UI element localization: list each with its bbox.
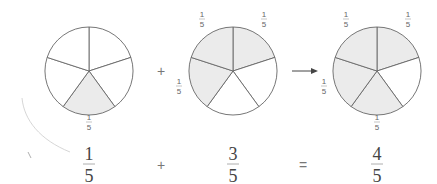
slice-label: 15 <box>86 113 92 132</box>
svg-text:5: 5 <box>87 123 92 132</box>
svg-text:1: 1 <box>200 10 205 19</box>
svg-text:1: 1 <box>262 10 267 19</box>
svg-text:1: 1 <box>344 10 349 19</box>
svg-text:1: 1 <box>322 77 327 86</box>
svg-text:3: 3 <box>229 144 238 164</box>
arrow-icon <box>292 68 318 74</box>
svg-text:5: 5 <box>200 20 205 29</box>
pie-3: 15151515 <box>321 10 421 132</box>
svg-text:4: 4 <box>373 144 382 164</box>
svg-text:1: 1 <box>177 77 182 86</box>
fraction-addition-diagram: 1515151515151515 + 1 5 + 3 5 = 4 5 <box>0 0 437 184</box>
svg-text:5: 5 <box>375 123 380 132</box>
svg-text:5: 5 <box>406 20 411 29</box>
svg-text:1: 1 <box>375 113 380 122</box>
svg-text:1: 1 <box>85 144 94 164</box>
fraction-term-2: 3 5 <box>227 144 239 184</box>
fraction-result: 4 5 <box>371 144 383 184</box>
plus-sign: + <box>157 157 165 173</box>
svg-text:5: 5 <box>322 87 327 96</box>
slice-label: 15 <box>343 10 349 29</box>
plus-sign-top: + <box>157 63 165 79</box>
svg-text:1: 1 <box>406 10 411 19</box>
svg-text:5: 5 <box>373 166 382 184</box>
svg-text:5: 5 <box>262 20 267 29</box>
slice-label: 15 <box>321 77 327 96</box>
equation: 1 5 + 3 5 = 4 5 <box>83 144 383 184</box>
svg-text:5: 5 <box>177 87 182 96</box>
equals-sign: = <box>299 157 307 173</box>
fraction-term-1: 1 5 <box>83 144 95 184</box>
svg-text:5: 5 <box>85 166 94 184</box>
slice-label: 15 <box>176 77 182 96</box>
slice-label: 15 <box>261 10 267 29</box>
svg-text:5: 5 <box>344 20 349 29</box>
svg-text:5: 5 <box>229 166 238 184</box>
svg-text:1: 1 <box>87 113 92 122</box>
pencil-mark <box>28 152 31 158</box>
slice-label: 15 <box>199 10 205 29</box>
pie-2: 151515 <box>176 10 277 115</box>
pie-1: 15 <box>45 27 133 132</box>
slice-label: 15 <box>374 113 380 132</box>
slice-label: 15 <box>405 10 411 29</box>
